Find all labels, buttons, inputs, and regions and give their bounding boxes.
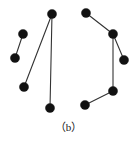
graph-node-L3 (47, 9, 56, 18)
graph-edge-L3-L4 (24, 14, 52, 87)
nodes-layer (10, 8, 128, 112)
graph-edge-L3-L5 (50, 14, 52, 108)
graph-edge-R1-R2 (86, 13, 113, 34)
graph-node-R4 (108, 86, 117, 95)
figure-container: （b） (0, 0, 137, 142)
graph-node-R2 (108, 29, 117, 38)
graph-node-R5 (80, 100, 89, 109)
graph-node-L2 (10, 53, 19, 62)
graph-node-L5 (45, 103, 54, 112)
graph-node-R1 (81, 8, 90, 17)
graph-diagram (0, 0, 137, 125)
edges-layer (15, 13, 124, 108)
figure-caption: （b） (0, 120, 137, 134)
graph-node-L1 (18, 29, 27, 38)
graph-node-R3 (119, 55, 128, 64)
graph-node-L4 (19, 82, 28, 91)
